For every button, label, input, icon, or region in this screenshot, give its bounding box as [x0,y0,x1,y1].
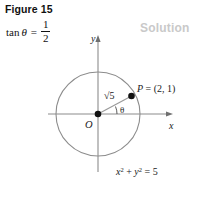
y-axis-label: y [90,33,96,44]
origin-label: O [85,119,93,130]
radius-label: √5 [104,90,115,101]
origin-point [95,111,102,118]
x-axis [48,111,173,116]
figure-container: Figure 15 tan θ = 1 2 Solution [0,0,206,203]
radius-label-group: √5 [104,90,115,101]
point-p-marker [128,93,135,100]
circle-equation-label: x2 + y2 = 5 [115,166,158,178]
angle-arc [116,107,118,115]
y-axis [95,35,100,172]
coordinate-plane-diagram: y x O √5 θ P = (2, 1) x2 + y2 = 5 [0,0,206,203]
point-p-label: P = (2, 1) [136,83,175,95]
x-axis-label: x [168,120,174,131]
angle-theta-label: θ [120,105,124,115]
